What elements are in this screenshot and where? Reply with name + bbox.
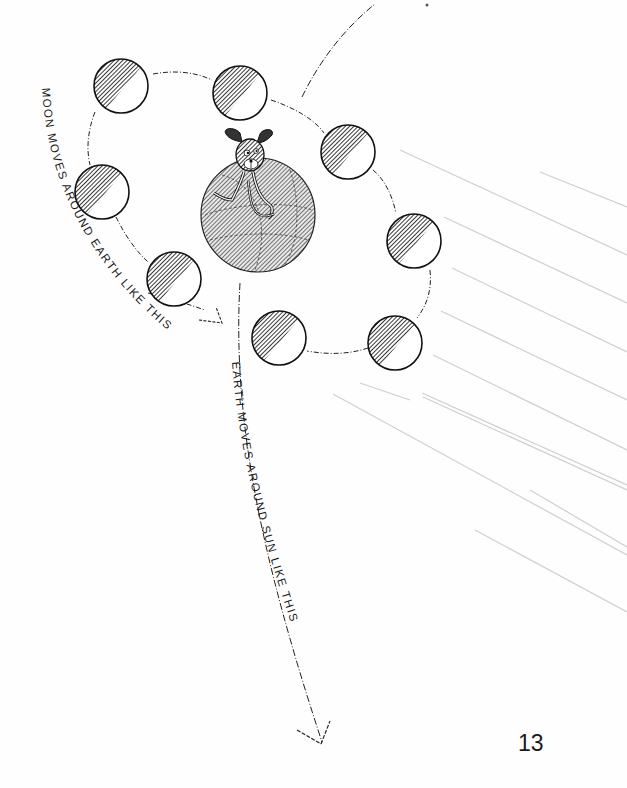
sun-ray-line [540, 172, 627, 207]
moon-phase [353, 195, 463, 295]
sun-ray-line [333, 394, 627, 555]
sun-ray-line [423, 397, 627, 490]
speck [426, 4, 429, 7]
earth-orbit-arc-top [302, 4, 375, 97]
sun-ray-line [530, 490, 627, 547]
sun-ray-line [422, 393, 627, 485]
sun-ray-line [441, 311, 627, 400]
moon-phase [334, 297, 444, 397]
earth-orbit-label-text: EARTH MOVES AROUND SUN LIKE THIS [230, 361, 301, 624]
sun-ray-line [433, 355, 627, 450]
moon-earth-orbit-diagram: MOON MOVES AROUND EARTH LIKE THIS EARTH … [0, 0, 627, 788]
sun-rays [333, 150, 627, 612]
book-page: MOON MOVES AROUND EARTH LIKE THIS EARTH … [0, 0, 627, 788]
earth-orbit-label: EARTH MOVES AROUND SUN LIKE THIS [230, 361, 301, 624]
sun-ray-line [452, 268, 627, 352]
earth-orbit-arrowhead-icon [297, 721, 330, 744]
sun-ray-line [360, 383, 410, 400]
page-number: 13 [518, 730, 544, 757]
moon-phase [60, 40, 170, 140]
moon-orbit-arrowhead-icon [199, 307, 222, 323]
sun-ray-line [444, 217, 627, 303]
earth-orbit-path [239, 4, 375, 742]
